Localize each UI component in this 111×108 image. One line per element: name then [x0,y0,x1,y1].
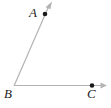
angle-diagram: A B C [0,0,111,108]
ray-bc-arrowhead [101,83,108,89]
ray-ba-arrowhead [46,2,52,10]
point-label-a: A [29,6,37,19]
point-a-marker [43,12,48,17]
point-label-b: B [4,87,12,100]
point-label-c: C [87,87,96,100]
